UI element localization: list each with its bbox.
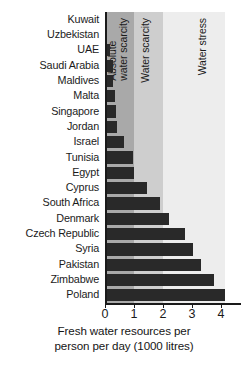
category-label-cyprus: Cyprus <box>66 181 99 193</box>
category-label-egypt: Egypt <box>72 166 99 178</box>
bar-row <box>105 90 225 102</box>
x-axis-title-line-2: person per day (1000 litres) <box>0 339 248 354</box>
water-resources-bar-chart: Absolute water scarcityWater scarcityWat… <box>0 0 248 369</box>
category-label-south-africa: South Africa <box>43 196 99 208</box>
bar-tunisia <box>105 151 133 163</box>
bar-row <box>105 197 225 209</box>
bar-singapore <box>105 105 116 117</box>
bar-denmark <box>105 213 169 225</box>
category-label-tunisia: Tunisia <box>66 151 99 163</box>
bar-row <box>105 105 225 117</box>
bar-row <box>105 213 225 225</box>
x-axis-title: Fresh water resources per person per day… <box>0 324 248 353</box>
bar-row <box>105 289 225 301</box>
bar-poland <box>105 289 225 301</box>
bar-czech-republic <box>105 228 185 240</box>
bar-syria <box>105 243 193 255</box>
category-label-singapore: Singapore <box>51 105 99 117</box>
x-tick-label: 4 <box>217 307 224 321</box>
category-label-denmark: Denmark <box>56 212 99 224</box>
x-tick-label: 3 <box>188 307 195 321</box>
category-label-syria: Syria <box>75 242 99 254</box>
category-axis-labels: KuwaitUzbekistanUAESaudi ArabiaMaldivesM… <box>0 12 102 303</box>
plot-area: Absolute water scarcityWater scarcityWat… <box>105 12 225 303</box>
category-label-israel: Israel <box>73 135 99 147</box>
bar-row <box>105 136 225 148</box>
bar-row <box>105 182 225 194</box>
bar-israel <box>105 136 124 148</box>
category-label-maldives: Maldives <box>58 74 99 86</box>
bar-row <box>105 167 225 179</box>
bar-row <box>105 14 225 26</box>
x-tick-label: 0 <box>102 307 109 321</box>
bar-row <box>105 228 225 240</box>
bar-row <box>105 274 225 286</box>
category-label-poland: Poland <box>66 288 99 300</box>
bar-row <box>105 44 225 56</box>
bar-cyprus <box>105 182 147 194</box>
x-tick-label: 1 <box>131 307 138 321</box>
bar-row <box>105 60 225 72</box>
x-axis-title-line-1: Fresh water resources per <box>0 324 248 339</box>
category-label-czech-republic: Czech Republic <box>25 227 99 239</box>
bar-zimbabwe <box>105 274 214 286</box>
bar-jordan <box>105 121 117 133</box>
bar-row <box>105 151 225 163</box>
category-label-pakistan: Pakistan <box>59 258 99 270</box>
bar-egypt <box>105 167 134 179</box>
bar-pakistan <box>105 259 201 271</box>
bar-south-africa <box>105 197 160 209</box>
bar-row <box>105 121 225 133</box>
bar-row <box>105 243 225 255</box>
category-label-malta: Malta <box>73 89 99 101</box>
bar-row <box>105 75 225 87</box>
bar-row <box>105 259 225 271</box>
y-axis-line <box>105 12 107 304</box>
bar-rows <box>105 12 225 303</box>
category-label-kuwait: Kuwait <box>67 13 99 25</box>
category-label-uzbekistan: Uzbekistan <box>47 28 99 40</box>
category-label-saudi-arabia: Saudi Arabia <box>40 59 99 71</box>
category-label-zimbabwe: Zimbabwe <box>50 273 99 285</box>
x-tick-label: 2 <box>159 307 166 321</box>
bar-row <box>105 29 225 41</box>
category-label-uae: UAE <box>77 43 99 55</box>
category-label-jordan: Jordan <box>67 120 99 132</box>
